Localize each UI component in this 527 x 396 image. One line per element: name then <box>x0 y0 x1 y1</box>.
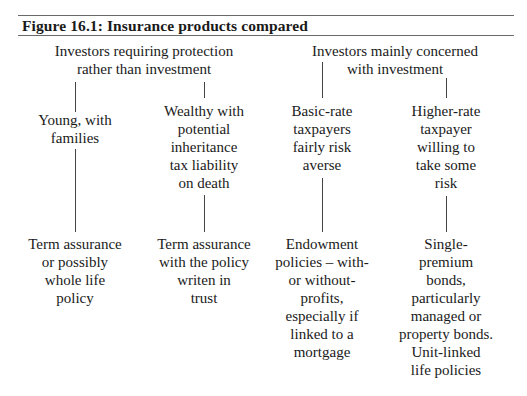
profile-wealthy-iht: Wealthy with potential inheritance tax l… <box>144 102 264 192</box>
product-line: policies – with- <box>262 253 382 271</box>
product-line: whole life <box>15 271 135 289</box>
profile-line: taxpayer <box>386 120 506 138</box>
profile-line: averse <box>262 156 382 174</box>
connector-line <box>204 195 205 232</box>
profile-line: tax liability <box>144 156 264 174</box>
product-line: life policies <box>380 361 512 379</box>
profile-line: Wealthy with <box>144 102 264 120</box>
profile-line: potential <box>144 120 264 138</box>
connector-line <box>322 178 323 232</box>
profile-basic-rate: Basic-rate taxpayers fairly risk averse <box>262 102 382 174</box>
label-line: rather than investment <box>44 60 244 78</box>
group-protection-label: Investors requiring protection rather th… <box>44 42 244 78</box>
product-line: especially if <box>262 307 382 325</box>
group-investment-label: Investors mainly concerned with investme… <box>295 42 495 78</box>
product-line: policy <box>15 289 135 307</box>
product-single-premium-bonds: Single- premium bonds, particularly mana… <box>380 235 512 379</box>
connector-line <box>204 82 205 98</box>
profile-young-families: Young, with families <box>15 111 135 147</box>
profile-higher-rate: Higher-rate taxpayer willing to take som… <box>386 102 506 192</box>
product-term-in-trust: Term assurance with the policy writen in… <box>144 235 264 307</box>
profile-line: Young, with <box>15 111 135 129</box>
product-line: Single- <box>380 235 512 253</box>
product-line: profits, <box>262 289 382 307</box>
title-rule <box>18 35 514 36</box>
product-line: bonds, <box>380 271 512 289</box>
product-line: mortgage <box>262 343 382 361</box>
product-line: Term assurance <box>15 235 135 253</box>
profile-line: willing to <box>386 138 506 156</box>
connector-line <box>75 82 76 112</box>
product-line: premium <box>380 253 512 271</box>
product-line: managed or <box>380 307 512 325</box>
profile-line: Higher-rate <box>386 102 506 120</box>
connector-line <box>446 196 447 232</box>
profile-line: taxpayers <box>262 120 382 138</box>
connector-line <box>322 62 323 98</box>
product-line: property bonds. <box>380 325 512 343</box>
product-line: or without- <box>262 271 382 289</box>
product-line: linked to a <box>262 325 382 343</box>
product-line: particularly <box>380 289 512 307</box>
connector-line <box>446 78 447 98</box>
product-line: with the policy <box>144 253 264 271</box>
top-rule <box>18 15 514 16</box>
profile-line: Basic-rate <box>262 102 382 120</box>
profile-line: on death <box>144 174 264 192</box>
profile-line: risk <box>386 174 506 192</box>
connector-line <box>75 149 76 232</box>
product-line: Endowment <box>262 235 382 253</box>
product-line: or possibly <box>15 253 135 271</box>
label-line: with investment <box>295 60 495 78</box>
profile-line: take some <box>386 156 506 174</box>
product-endowment: Endowment policies – with- or without- p… <box>262 235 382 361</box>
profile-line: inheritance <box>144 138 264 156</box>
figure-title: Figure 16.1: Insurance products compared <box>22 17 308 35</box>
label-line: Investors requiring protection <box>44 42 244 60</box>
product-line: Term assurance <box>144 235 264 253</box>
product-line: Unit-linked <box>380 343 512 361</box>
product-line: trust <box>144 289 264 307</box>
profile-line: fairly risk <box>262 138 382 156</box>
label-line: Investors mainly concerned <box>295 42 495 60</box>
product-term-whole-life: Term assurance or possibly whole life po… <box>15 235 135 307</box>
product-line: writen in <box>144 271 264 289</box>
profile-line: families <box>15 129 135 147</box>
